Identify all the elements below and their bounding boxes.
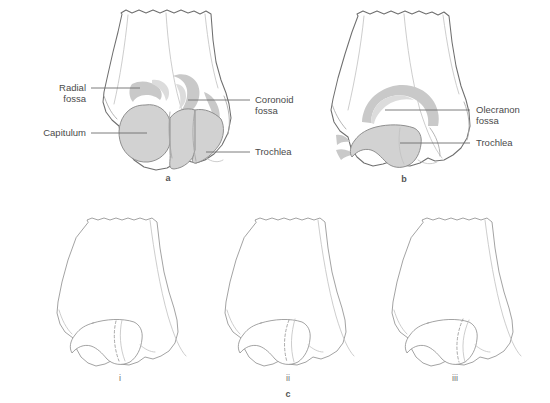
numeral-ii: ii [286, 373, 290, 383]
panel-c-i: i [57, 218, 186, 383]
label-radial-fossa-line1: Radial [59, 82, 86, 93]
label-trochlea-a: Trochlea [255, 146, 292, 157]
panel-letter-b: b [401, 174, 407, 184]
label-olecranon-fossa-line1: Olecranon [476, 104, 520, 115]
label-olecranon-fossa-line2: fossa [476, 115, 499, 126]
lower-contour-a [206, 158, 223, 162]
figure-root: Radial fossa Capitulum Coronoid fossa Tr… [0, 0, 550, 403]
numeral-iii: iii [452, 373, 458, 383]
label-capitulum: Capitulum [43, 127, 86, 138]
panel-c-iii: iii [392, 218, 521, 383]
trochlea-medial-a [192, 109, 223, 163]
label-radial-fossa-line2: fossa [63, 93, 86, 104]
label-trochlea-b: Trochlea [476, 137, 513, 148]
panel-b: Olecranon fossa Trochlea b [331, 11, 520, 184]
numeral-i: i [119, 373, 121, 383]
label-coronoid-fossa-line1: Coronoid [255, 94, 294, 105]
panel-a: Radial fossa Capitulum Coronoid fossa Tr… [43, 10, 293, 183]
label-coronoid-fossa-line2: fossa [255, 105, 278, 116]
panel-letter-c: c [285, 389, 290, 399]
panel-letter-a: a [165, 173, 171, 183]
panel-c-ii: ii [225, 218, 354, 383]
anatomy-figure-svg: Radial fossa Capitulum Coronoid fossa Tr… [0, 0, 550, 403]
